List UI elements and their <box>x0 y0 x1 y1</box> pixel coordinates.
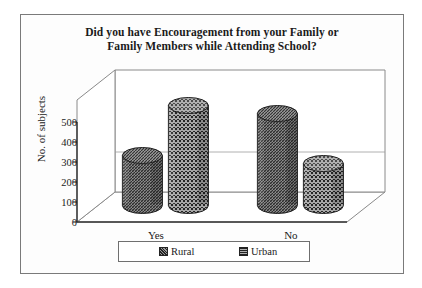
bar-rural-no <box>257 106 297 214</box>
bar-rural-yes <box>122 148 162 214</box>
y-tick-100: 100 <box>43 197 77 208</box>
plot-area: No. of subjects 0100200300400500 YesNo <box>21 67 405 227</box>
chart-figure: Did you have Encouragement from your Fam… <box>20 14 404 274</box>
bar-urban-no <box>303 156 343 214</box>
y-tick-400: 400 <box>43 137 77 148</box>
legend-swatch-urban-icon <box>239 247 248 256</box>
y-tick-200: 200 <box>43 177 77 188</box>
chart-legend: RuralUrban <box>118 241 310 262</box>
y-axis-ticks: 0100200300400500 <box>43 67 77 227</box>
chart-canvas <box>21 67 405 247</box>
x-tick-yes: Yes <box>148 229 164 241</box>
legend-item-rural[interactable]: Rural <box>159 244 194 258</box>
chart-title-line1: Did you have Encouragement from your Fam… <box>85 26 339 38</box>
legend-label: Rural <box>171 246 194 257</box>
legend-swatch-rural-icon <box>159 247 168 256</box>
legend-label: Urban <box>251 246 277 257</box>
x-tick-no: No <box>284 229 297 241</box>
chart-title: Did you have Encouragement from your Fam… <box>21 25 403 53</box>
bar-urban-yes <box>168 98 208 214</box>
y-tick-0: 0 <box>43 217 77 228</box>
chart-title-line2: Family Members while Attending School? <box>21 39 403 53</box>
y-tick-300: 300 <box>43 157 77 168</box>
y-tick-500: 500 <box>43 117 77 128</box>
legend-item-urban[interactable]: Urban <box>239 244 277 258</box>
